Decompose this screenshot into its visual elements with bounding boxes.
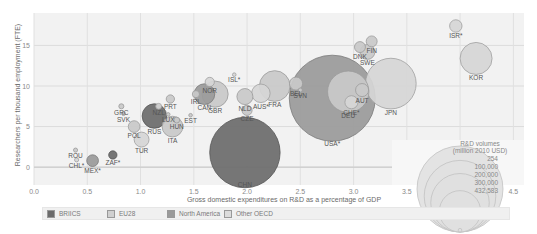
- bubble-chn[interactable]: [210, 117, 280, 187]
- legend: BRIICSEU28North AmericaOther OECD: [42, 207, 510, 220]
- legend-label: Other OECD: [236, 210, 273, 217]
- x-tick-label: 2.5: [295, 188, 305, 195]
- size-legend-value: 200,000: [475, 171, 499, 178]
- legend-label: EU28: [119, 210, 135, 217]
- bubble-label: MEX*: [84, 167, 101, 174]
- y-tick-label: 10: [22, 83, 30, 90]
- x-tick-label: 0.0: [29, 188, 39, 195]
- bubble-label: ISR*: [449, 32, 463, 39]
- bubble-label: ROU: [68, 152, 83, 159]
- size-legend-title: R&D volumes: [460, 140, 500, 147]
- bubble-chart: 051015 0.00.51.01.52.02.53.03.54.04.5 Re…: [0, 0, 537, 234]
- bubble-kor[interactable]: [460, 42, 492, 74]
- bubble-nor[interactable]: [205, 77, 214, 86]
- bubble-label: CZE: [241, 115, 255, 122]
- bubble-pol[interactable]: [128, 121, 140, 133]
- legend-item-north-america[interactable]: North America: [167, 210, 224, 218]
- legend-swatch: [224, 210, 232, 218]
- size-legend-value: 100,000: [475, 163, 499, 170]
- size-legend-subtitle: (million 2010 USD): [453, 147, 508, 155]
- bubble-zaf[interactable]: [109, 151, 117, 159]
- bubble-label: NOR: [203, 87, 218, 94]
- bubble-label: FIN: [366, 47, 377, 54]
- bubble-label: NZL: [152, 109, 165, 116]
- size-legend-value: 254: [487, 155, 498, 162]
- bubble-label: FRA: [268, 101, 282, 108]
- bubble-label: CHN: [238, 181, 252, 188]
- bubble-nld[interactable]: [237, 89, 253, 105]
- size-legend-value: 432,583: [475, 187, 499, 194]
- bubble-label: HUN: [170, 123, 184, 130]
- legend-item-briics[interactable]: BRIICS: [47, 210, 107, 218]
- bubble-label: POL: [128, 132, 141, 139]
- bubble-aut[interactable]: [356, 84, 369, 97]
- bubble-aus[interactable]: [252, 84, 270, 102]
- bubble-label: GBR: [208, 107, 222, 114]
- bubble-label: EST: [184, 117, 197, 124]
- legend-label: North America: [179, 210, 220, 217]
- x-axis-label: Gross domestic expenditures on R&D as a …: [187, 196, 381, 204]
- bubble-label: SVK: [117, 116, 131, 123]
- y-tick-label: 15: [22, 42, 30, 49]
- bubble-label: SVN: [294, 92, 308, 99]
- bubble-label: NLD: [238, 105, 251, 112]
- bubble-label: USA*: [324, 140, 340, 147]
- legend-item-eu28[interactable]: EU28: [107, 210, 167, 218]
- bubble-fin[interactable]: [366, 36, 377, 47]
- legend-swatch: [167, 210, 175, 218]
- y-axis-label: Researchers per thousand employment (FTE…: [14, 24, 22, 166]
- x-tick-label: 2.0: [242, 188, 252, 195]
- legend-label: BRIICS: [59, 210, 81, 217]
- bubble-label: TUR: [135, 147, 149, 154]
- bubble-prt[interactable]: [166, 95, 174, 103]
- bubble-label: CHL*: [69, 162, 85, 169]
- bubble-isr[interactable]: [450, 20, 462, 32]
- x-tick-label: 1.0: [136, 188, 146, 195]
- legend-swatch: [47, 210, 55, 218]
- x-tick-label: 0.5: [82, 188, 92, 195]
- bubble-label: RUS: [148, 128, 162, 135]
- size-legend-value: 300,000: [475, 179, 499, 186]
- bubble-label: AUS*: [253, 103, 269, 110]
- bubble-mex[interactable]: [87, 155, 99, 167]
- bubble-dnk[interactable]: [354, 42, 365, 53]
- y-axis-ticks: 051015: [22, 42, 30, 171]
- legend-swatch: [107, 210, 115, 218]
- bubble-label: JPN: [385, 109, 398, 116]
- bubble-label: IRL: [191, 98, 202, 105]
- legend-item-other-oecd[interactable]: Other OECD: [224, 210, 294, 218]
- y-tick-label: 5: [26, 123, 30, 130]
- bubble-irl[interactable]: [192, 91, 199, 98]
- bubble-label: ITA: [168, 137, 178, 144]
- bubble-label: PRT: [164, 103, 177, 110]
- bubble-label: SWE: [360, 59, 375, 66]
- x-tick-label: 3.5: [402, 188, 412, 195]
- bubble-label: AUT: [356, 97, 369, 104]
- bubble-label: ISL*: [228, 76, 241, 83]
- bubble-label: ZAF*: [105, 159, 120, 166]
- y-tick-label: 0: [26, 164, 30, 171]
- x-tick-label: 3.0: [349, 188, 359, 195]
- x-tick-label: 4.5: [508, 188, 518, 195]
- bubble-label: KOR: [469, 74, 483, 81]
- bubble-label: CHE*: [343, 109, 360, 116]
- x-tick-label: 1.5: [189, 188, 199, 195]
